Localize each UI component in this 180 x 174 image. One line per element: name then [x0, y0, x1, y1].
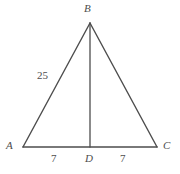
geometry-figure: B A C D 25 7 7 [0, 0, 180, 174]
measure-label-segment-dc: 7 [120, 153, 126, 164]
vertex-label-c: C [163, 140, 170, 151]
measure-label-segment-ad: 7 [51, 153, 57, 164]
edge-bc-line [90, 23, 157, 147]
vertex-label-d: D [85, 153, 93, 164]
measure-label-side-ab: 25 [37, 70, 48, 81]
vertex-label-a: A [6, 140, 13, 151]
edge-ab-line [23, 23, 90, 147]
vertex-label-b: B [84, 3, 91, 14]
triangle-diagram-svg [0, 0, 180, 174]
